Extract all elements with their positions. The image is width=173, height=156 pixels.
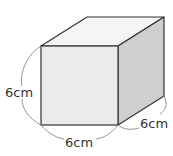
cube-diagram: 6cm 6cm 6cm bbox=[0, 0, 173, 156]
height-label: 6cm bbox=[5, 85, 33, 100]
width-label: 6cm bbox=[65, 135, 93, 150]
depth-label: 6cm bbox=[140, 116, 168, 131]
cube-front-face bbox=[41, 46, 118, 125]
